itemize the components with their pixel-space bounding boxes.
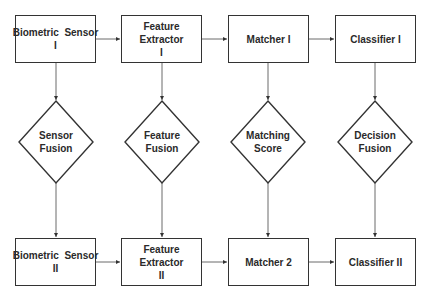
box-label-line2: II (159, 269, 165, 282)
box-classifier-2: Classifier II (335, 238, 416, 286)
box-feature-extractor-2: Feature Extractor II (121, 238, 202, 286)
box-label-line1: Feature Extractor (122, 243, 201, 269)
box-biometric-sensor-1: Biometric Sensor I (15, 15, 96, 63)
diamond-label-line1: Decision (338, 129, 412, 142)
box-biometric-sensor-2: Biometric Sensor II (15, 238, 96, 286)
diamond-label-matching-score: Matching Score (231, 129, 305, 155)
diamond-label-line1: Feature (125, 129, 199, 142)
box-feature-extractor-1: Feature Extractor I (121, 15, 202, 63)
box-label-line1: Matcher I (247, 33, 291, 46)
diamond-label-sensor-fusion: Sensor Fusion (19, 129, 93, 155)
box-label-line1: Matcher 2 (245, 256, 292, 269)
box-label-line1: Feature Extractor (122, 20, 201, 46)
diamond-label-line1: Sensor (19, 129, 93, 142)
diamond-label-line2: Score (231, 142, 305, 155)
diamond-label-decision-fusion: Decision Fusion (338, 129, 412, 155)
box-label-line2: I (54, 39, 57, 52)
box-label-line1: Classifier II (349, 256, 402, 269)
diamond-label-line1: Matching (231, 129, 305, 142)
box-label-line1: Classifier I (350, 33, 401, 46)
box-matcher-1: Matcher I (228, 15, 309, 63)
box-label-line1: Biometric Sensor (13, 249, 99, 262)
diamond-label-feature-fusion: Feature Fusion (125, 129, 199, 155)
box-label-line1: Biometric Sensor (13, 26, 99, 39)
box-label-line2: II (53, 262, 59, 275)
diamond-label-line2: Fusion (19, 142, 93, 155)
diamond-label-line2: Fusion (338, 142, 412, 155)
diamond-label-line2: Fusion (125, 142, 199, 155)
box-label-line2: I (160, 46, 163, 59)
box-classifier-1: Classifier I (335, 15, 416, 63)
box-matcher-2: Matcher 2 (228, 238, 309, 286)
